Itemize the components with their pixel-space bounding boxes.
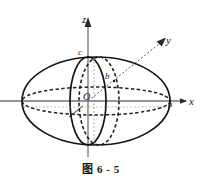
z-axis-label: z	[82, 14, 86, 25]
semi-axis-c-label: c	[78, 48, 82, 57]
x-axis-arrow	[180, 98, 187, 104]
point-c	[87, 56, 89, 58]
y-axis	[69, 38, 166, 118]
ellipsoid-diagram	[0, 0, 202, 182]
x-axis-label: x	[189, 96, 194, 107]
semi-axis-a-label: a	[168, 100, 173, 109]
x-axis	[0, 98, 187, 104]
point-b	[113, 80, 115, 82]
y-axis-label: y	[166, 35, 171, 46]
semi-axis-b-label: b	[105, 72, 110, 81]
figure-caption: 图 6 - 5	[0, 160, 202, 176]
origin-label: O	[83, 92, 90, 102]
figure-container: z y x c b a O 图 6 - 5	[0, 0, 202, 182]
